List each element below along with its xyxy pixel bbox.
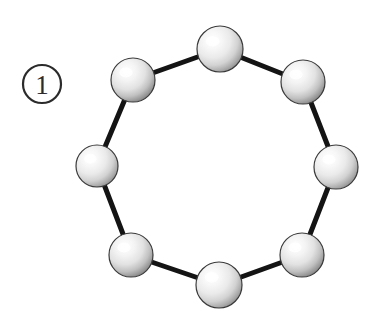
sphere-right	[314, 145, 358, 189]
figure-root: 1	[0, 0, 386, 333]
sphere-lower-right-highlight	[288, 242, 301, 252]
sphere-layer	[76, 26, 358, 308]
sphere-upper-left-highlight	[119, 67, 132, 77]
sphere-bottom	[196, 262, 242, 308]
sphere-left-highlight	[84, 154, 97, 164]
sphere-top-body	[197, 26, 243, 72]
sphere-right-body	[314, 145, 358, 189]
sphere-lower-left	[109, 233, 153, 277]
sphere-top-highlight	[206, 36, 220, 47]
circled-number-label: 1	[23, 65, 61, 103]
sphere-upper-right-body	[281, 60, 325, 104]
label-number: 1	[35, 70, 49, 100]
sphere-lower-right-body	[280, 233, 324, 277]
sphere-upper-right-highlight	[289, 69, 302, 79]
sphere-left-body	[76, 145, 118, 187]
sphere-bottom-body	[196, 262, 242, 308]
sphere-lower-right	[280, 233, 324, 277]
sphere-lower-left-highlight	[117, 242, 130, 252]
sphere-upper-left	[111, 58, 155, 102]
sphere-left	[76, 145, 118, 187]
sphere-top	[197, 26, 243, 72]
ring-diagram: 1	[0, 0, 386, 333]
sphere-right-highlight	[322, 154, 335, 164]
sphere-bottom-highlight	[205, 272, 219, 283]
sphere-upper-right	[281, 60, 325, 104]
sphere-upper-left-body	[111, 58, 155, 102]
sphere-lower-left-body	[109, 233, 153, 277]
